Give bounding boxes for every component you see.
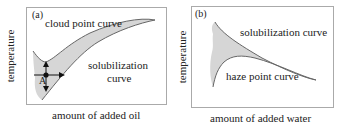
panel-a-x-axis-label: amount of added oil — [52, 109, 140, 121]
panel-a-y-axis-label: temperature — [4, 30, 16, 83]
cloud-point-curve-label: cloud point curve — [45, 17, 122, 29]
solubilization-label-line2: curve — [107, 72, 131, 84]
solubilization-curve-b-label: solubilization curve — [240, 26, 327, 38]
haze-point-curve-label: haze point curve — [226, 70, 299, 82]
panel-b-tag: (b) — [195, 8, 207, 19]
panel-b-x-axis-label: amount of added water — [210, 112, 311, 124]
point-a-label: A — [39, 75, 46, 86]
solubilization-label-line1: solubilization — [88, 59, 148, 71]
panel-b-y-axis-label: temperature — [176, 31, 188, 84]
panel-a-tag: (a) — [32, 9, 43, 20]
panel-b — [192, 7, 334, 108]
